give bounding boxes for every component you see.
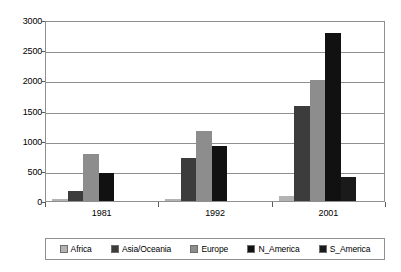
legend-label: N_America xyxy=(258,245,299,254)
x-tick-mark xyxy=(272,202,273,207)
bar xyxy=(52,199,68,201)
bar xyxy=(294,106,310,201)
y-tick-label: 500 xyxy=(8,168,42,177)
y-tick-label: 1000 xyxy=(8,138,42,147)
legend-label: S_America xyxy=(330,245,371,254)
bar xyxy=(181,158,197,201)
legend-swatch-icon xyxy=(60,245,68,253)
plot-area xyxy=(45,21,385,202)
x-tick-mark xyxy=(45,202,46,207)
y-tick-label: 0 xyxy=(8,198,42,207)
legend-item[interactable]: S_America xyxy=(319,245,371,254)
legend-item[interactable]: Asia/Oceania xyxy=(111,245,171,254)
legend-label: Africa xyxy=(71,245,92,254)
bar xyxy=(83,154,99,201)
x-tick-mark xyxy=(385,202,386,207)
bar xyxy=(165,199,181,201)
y-tick-label: 1500 xyxy=(8,108,42,117)
bar xyxy=(279,196,295,201)
bar xyxy=(310,80,326,201)
bar xyxy=(68,191,84,201)
bar xyxy=(212,146,228,202)
legend-swatch-icon xyxy=(111,245,119,253)
bar xyxy=(99,173,115,201)
y-tick-label: 2000 xyxy=(8,77,42,86)
legend-swatch-icon xyxy=(190,245,198,253)
legend-label: Asia/Oceania xyxy=(122,245,171,254)
x-tick-mark xyxy=(158,202,159,207)
legend-swatch-icon xyxy=(247,245,255,253)
chart-legend: AfricaAsia/OceaniaEuropeN_AmericaS_Ameri… xyxy=(45,238,385,260)
y-tick-label: 3000 xyxy=(8,17,42,26)
x-tick-label: 1981 xyxy=(45,208,158,218)
legend-item[interactable]: Africa xyxy=(60,245,92,254)
legend-swatch-icon xyxy=(319,245,327,253)
y-tick-label: 2500 xyxy=(8,47,42,56)
legend-label: Europe xyxy=(201,245,228,254)
x-tick-label: 1992 xyxy=(158,208,271,218)
bar xyxy=(196,131,212,201)
legend-item[interactable]: Europe xyxy=(190,245,228,254)
bar-chart: 050010001500200025003000 198119922001 Af… xyxy=(0,0,401,272)
legend-item[interactable]: N_America xyxy=(247,245,299,254)
x-tick-label: 2001 xyxy=(272,208,385,218)
bar xyxy=(325,33,341,201)
bar xyxy=(341,177,357,201)
